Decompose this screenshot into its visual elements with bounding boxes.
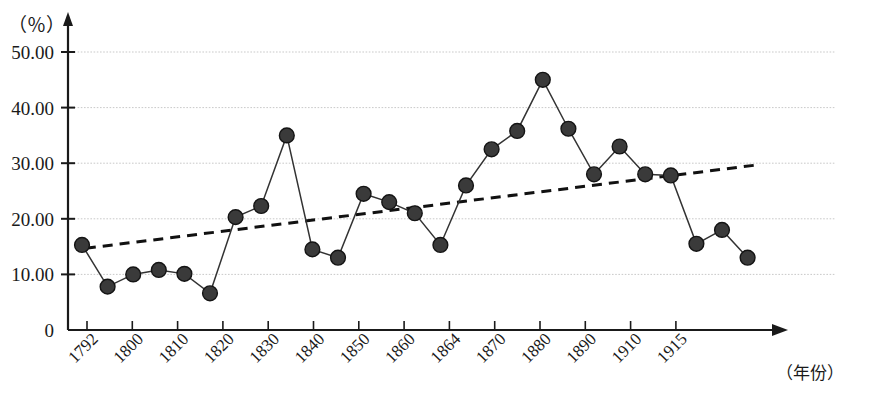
x-tick-label: 1840 [291,329,328,366]
chart-container: 010.0020.0030.0040.0050.00 1792180018101… [0,0,887,398]
y-axis [63,12,73,330]
data-point [356,186,371,201]
x-axis-arrow-icon [772,324,788,336]
data-point [561,121,576,136]
data-point [663,168,678,183]
data-point [535,72,550,87]
y-tick-label: 50.00 [11,42,54,63]
trend-line [86,165,758,248]
data-point [100,279,115,294]
x-tick-label: 1880 [517,329,554,366]
y-tick-label: 30.00 [11,153,54,174]
data-point [75,238,90,253]
x-tick-label: 1830 [246,329,283,366]
gridlines [68,52,836,274]
data-line-path [82,80,748,294]
data-point [459,178,474,193]
data-point [715,223,730,238]
data-point [740,250,755,265]
data-line [82,80,748,294]
data-point [126,267,141,282]
x-tick-label: 1800 [110,329,147,366]
x-tick-label: 1820 [200,329,237,366]
data-point [484,142,499,157]
x-tick-label: 1810 [155,329,192,366]
x-tick-label: 1915 [653,329,690,366]
y-axis-unit-label: （％） [8,15,65,36]
data-point-markers [75,72,755,300]
x-tick-label: 1860 [381,329,418,366]
x-axis-title: （年份） [776,364,844,383]
y-tick-label: 10.00 [11,264,54,285]
data-point [407,206,422,221]
x-tick-label: 1870 [472,329,509,366]
x-tick-label: 1792 [64,329,101,366]
data-point [382,195,397,210]
data-point [433,238,448,253]
data-point [638,167,653,182]
data-point [279,128,294,143]
y-tick-label: 20.00 [11,209,54,230]
data-point [689,236,704,251]
data-point [510,124,525,139]
data-point [612,139,627,154]
x-tick-label: 1850 [336,329,373,366]
data-point [151,263,166,278]
x-tick-label: 1910 [608,329,645,366]
trend-line-path [86,165,758,248]
y-tick-label: 0 [45,320,55,341]
data-point [305,242,320,257]
x-tick-marks [87,321,676,330]
data-point [254,199,269,214]
data-point [331,250,346,265]
x-tick-labels: 1792180018101820183018401850186018641870… [64,329,690,367]
data-point [177,266,192,281]
x-tick-label: 1890 [563,329,600,366]
data-point [587,167,602,182]
line-chart: 010.0020.0030.0040.0050.00 1792180018101… [0,0,887,398]
y-tick-labels: 010.0020.0030.0040.0050.00 [11,42,54,341]
y-tick-label: 40.00 [11,98,54,119]
data-point [203,286,218,301]
data-point [228,210,243,225]
x-tick-label: 1864 [427,329,465,367]
